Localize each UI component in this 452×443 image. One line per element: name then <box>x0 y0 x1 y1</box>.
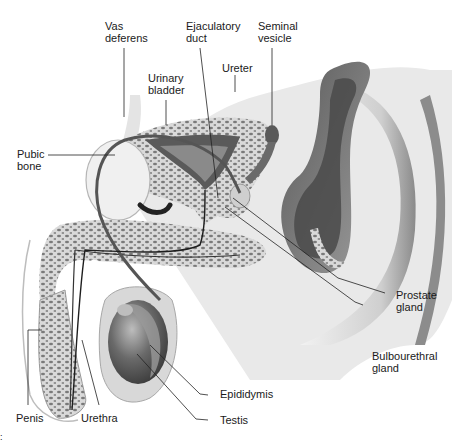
label-bulbourethral-gland: Bulbourethral gland <box>372 350 437 374</box>
label-testis: Testis <box>220 414 248 426</box>
corner-mark: : <box>0 432 3 440</box>
label-epididymis: Epididymis <box>220 388 273 400</box>
label-prostate-gland: Prostate gland <box>396 289 437 313</box>
label-pubic-bone: Pubic bone <box>17 148 45 172</box>
label-urethra: Urethra <box>81 412 118 424</box>
prostate <box>206 182 250 218</box>
label-vas-deferens: Vas deferens <box>105 20 148 44</box>
label-ureter: Ureter <box>222 62 253 74</box>
label-seminal-vesicle: Seminal vesicle <box>258 20 298 44</box>
label-urinary-bladder: Urinary bladder <box>148 72 185 96</box>
label-penis: Penis <box>16 412 44 424</box>
label-ejaculatory-duct: Ejaculatory duct <box>186 20 240 44</box>
